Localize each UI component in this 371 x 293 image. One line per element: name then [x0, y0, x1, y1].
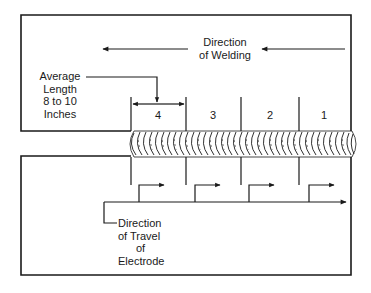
- segment-label-4: 4: [148, 109, 168, 121]
- average-length-line1: Average: [32, 70, 88, 83]
- segment-label-3: 3: [203, 109, 223, 121]
- average-length-line2: Length: [32, 83, 88, 96]
- welding-direction-line2: of Welding: [190, 49, 260, 62]
- segment-label-2: 2: [260, 109, 280, 121]
- electrode-travel-label: Direction of Travel of Electrode: [118, 217, 178, 267]
- electrode-travel-line2: of Travel: [118, 230, 178, 243]
- average-length-line4: Inches: [32, 108, 88, 121]
- weld-bead: [130, 131, 356, 157]
- electrode-travel-line3: of: [118, 242, 178, 255]
- weld-diagram: [0, 0, 371, 293]
- electrode-travel-line4: Electrode: [118, 255, 178, 268]
- welding-direction-label: Direction of Welding: [190, 36, 260, 61]
- average-length-line3: 8 to 10: [32, 95, 88, 108]
- segment-label-1: 1: [314, 109, 334, 121]
- electrode-travel-line1: Direction: [118, 217, 178, 230]
- average-length-label: Average Length 8 to 10 Inches: [32, 70, 88, 120]
- average-length-callout: [86, 77, 184, 104]
- segment-dividers-bottom: [131, 157, 299, 185]
- step-arrow-icons: [139, 185, 334, 202]
- welding-direction-line1: Direction: [190, 36, 260, 49]
